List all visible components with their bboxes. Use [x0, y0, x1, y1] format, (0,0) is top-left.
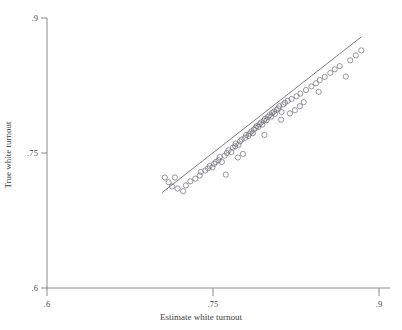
scatter-point — [294, 94, 299, 99]
scatter-point — [188, 179, 193, 184]
scatter-point — [298, 91, 303, 96]
y-axis-title: True white turnout — [3, 55, 13, 255]
scatter-point — [197, 173, 202, 178]
scatter-point — [332, 67, 337, 72]
scatter-point — [175, 186, 180, 191]
scatter-point — [278, 117, 283, 122]
scatter-point — [262, 132, 267, 137]
tick-marks — [41, 18, 379, 296]
scatter-point — [337, 64, 342, 69]
scatter-point — [166, 180, 171, 185]
scatter-point — [317, 78, 322, 83]
scatter-point — [359, 48, 364, 53]
fit-line — [162, 37, 361, 193]
scatter-plot-figure: .9 .75 .6 .6 .75 .9 Estimate white turno… — [0, 0, 402, 330]
fit-line-segment — [162, 37, 361, 193]
scatter-point — [328, 70, 333, 75]
scatter-point — [172, 175, 177, 180]
x-axis-title: Estimate white turnout — [0, 312, 402, 322]
scatter-point — [279, 109, 284, 114]
scatter-point — [322, 74, 327, 79]
scatter-point — [343, 74, 348, 79]
scatter-point — [297, 104, 302, 109]
x-tick-label-6: .6 — [37, 299, 57, 309]
scatter-point — [162, 175, 167, 180]
scatter-point — [183, 183, 188, 188]
scatter-point — [292, 108, 297, 113]
scatter-point — [348, 58, 353, 63]
scatter-points — [162, 48, 364, 194]
y-tick-label-9: .9 — [18, 13, 38, 23]
axis-lines — [47, 18, 390, 288]
scatter-point — [269, 114, 274, 119]
scatter-point — [181, 189, 186, 194]
scatter-point — [217, 154, 222, 159]
scatter-point — [235, 155, 240, 160]
plot-canvas — [0, 0, 402, 330]
scatter-point — [353, 53, 358, 58]
scatter-point — [240, 151, 245, 156]
scatter-point — [316, 89, 321, 94]
scatter-point — [303, 87, 308, 92]
y-tick-label-75: .75 — [18, 148, 38, 158]
scatter-point — [223, 172, 228, 177]
scatter-point — [287, 111, 292, 116]
scatter-point — [301, 100, 306, 105]
x-tick-label-9: .9 — [369, 299, 389, 309]
x-tick-label-75: .75 — [203, 299, 223, 309]
y-tick-label-6: .6 — [18, 283, 38, 293]
